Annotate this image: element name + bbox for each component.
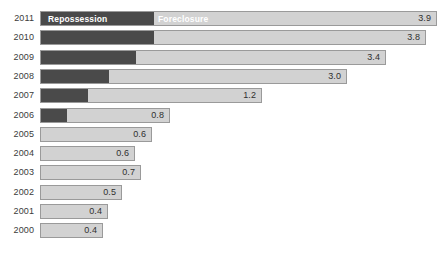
year-axis-label: 2003: [7, 165, 34, 180]
bar-value-label: 3.0: [305, 69, 341, 84]
stacked-bar: [40, 30, 426, 45]
table-row: 2011RepossessionForeclosure3.9: [0, 11, 447, 26]
bar-segment-repossession: [41, 109, 67, 122]
table-row: 20083.0: [0, 69, 447, 84]
bar-segment-repossession: [41, 31, 154, 44]
year-axis-label: 2004: [7, 146, 34, 161]
year-axis-label: 2005: [7, 127, 34, 142]
bar-value-label: 3.4: [344, 50, 380, 65]
bar-value-label: 0.4: [66, 204, 102, 219]
year-axis-label: 2010: [7, 30, 34, 45]
year-axis-label: 2006: [7, 108, 34, 123]
bar-segment-repossession: [41, 51, 136, 64]
table-row: 20071.2: [0, 88, 447, 103]
bar-value-label: 0.6: [110, 127, 146, 142]
legend-label-foreclosure: Foreclosure: [158, 12, 208, 26]
stacked-bar: [40, 69, 347, 84]
table-row: 20060.8: [0, 108, 447, 123]
year-axis-label: 2008: [7, 69, 34, 84]
bar-value-label: 0.4: [61, 223, 97, 238]
legend-label-repossession: Repossession: [48, 12, 107, 26]
bar-segment-repossession: [41, 89, 88, 102]
table-row: 20093.4: [0, 50, 447, 65]
bar-value-label: 1.2: [220, 88, 256, 103]
stacked-bar: RepossessionForeclosure: [40, 11, 437, 26]
year-axis-label: 2011: [7, 11, 34, 26]
table-row: 20020.5: [0, 185, 447, 200]
year-axis-label: 2007: [7, 88, 34, 103]
table-row: 20040.6: [0, 146, 447, 161]
bar-value-label: 3.9: [395, 11, 431, 26]
bar-value-label: 0.5: [80, 185, 116, 200]
table-row: 20050.6: [0, 127, 447, 142]
bar-value-label: 0.7: [99, 165, 135, 180]
stacked-bar-chart: 2011RepossessionForeclosure3.920103.8200…: [0, 0, 447, 275]
year-axis-label: 2009: [7, 50, 34, 65]
stacked-bar: [40, 50, 386, 65]
bar-value-label: 3.8: [384, 30, 420, 45]
table-row: 20103.8: [0, 30, 447, 45]
year-axis-label: 2001: [7, 204, 34, 219]
bar-value-label: 0.8: [128, 108, 164, 123]
table-row: 20000.4: [0, 223, 447, 238]
bar-value-label: 0.6: [93, 146, 129, 161]
bar-segment-repossession: [41, 70, 109, 83]
table-row: 20030.7: [0, 165, 447, 180]
table-row: 20010.4: [0, 204, 447, 219]
bar-segment-repossession: Repossession: [41, 12, 154, 25]
year-axis-label: 2000: [7, 223, 34, 238]
year-axis-label: 2002: [7, 185, 34, 200]
